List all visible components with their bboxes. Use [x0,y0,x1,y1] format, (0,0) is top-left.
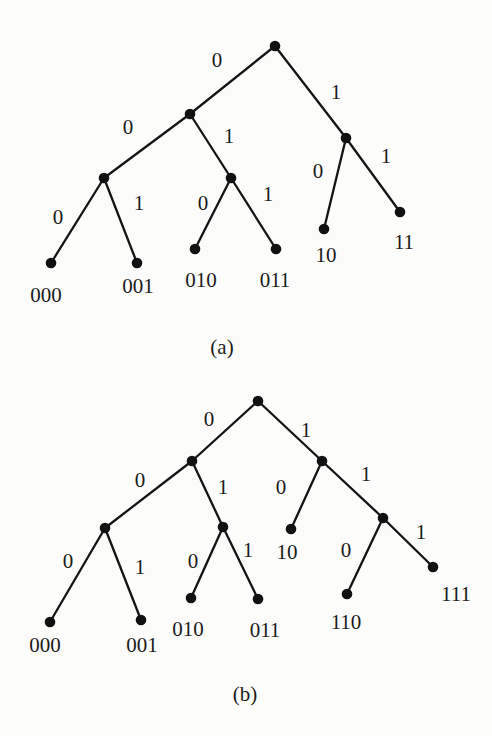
tree-edge-b-root-n1 [258,401,322,461]
leaf-code-label-b-001: 001 [126,633,158,657]
tree-edge-b-n00-l000 [50,528,105,622]
tree-node-a-l001 [132,258,143,269]
edge-bit-label-b: 0 [63,549,74,573]
leaf-code-label-b-010: 010 [172,617,204,641]
tree-node-b-l10 [286,524,297,535]
edge-bit-label-b: 1 [416,520,427,544]
tree-node-b-l011 [253,594,264,605]
tree-node-b-n11 [378,513,389,524]
leaf-code-label-a-000: 000 [30,283,62,307]
edge-bit-label-a: 0 [212,48,223,72]
edge-bit-label-a: 1 [381,144,392,168]
edge-bit-label-a: 1 [331,80,342,104]
tree-node-b-n0 [187,456,198,467]
tree-edge-b-n1-l10 [291,461,322,529]
edge-bit-label-b: 1 [361,462,372,486]
tree-node-b-n00 [100,523,111,534]
edge-bit-label-a: 0 [313,159,324,183]
leaf-code-label-a-001: 001 [122,274,154,298]
leaf-code-label-b-000: 000 [29,633,61,657]
edge-bit-label-a: 0 [123,115,134,139]
leaf-code-label-b-011: 011 [250,618,281,642]
tree-node-b-l010 [186,593,197,604]
tree-edge-b-n11-l110 [347,518,383,594]
tree-edge-b-n1-n11 [322,461,383,518]
tree-edge-a-n00-l001 [104,178,137,263]
edge-bit-label-a: 0 [198,191,209,215]
tree-node-a-root [270,41,281,52]
tree-node-b-root [253,396,264,407]
edge-bit-label-b: 0 [188,549,199,573]
tree-node-a-l010 [190,244,201,255]
edge-bit-label-b: 0 [341,538,352,562]
tree-node-a-l000 [46,258,57,269]
edge-bit-label-b: 1 [135,555,146,579]
tree-edge-a-n0-n00 [104,114,190,178]
edge-bit-label-b: 1 [218,475,229,499]
tree-node-a-l11 [395,207,406,218]
edge-bit-label-a: 1 [134,191,145,215]
leaf-code-label-a-011: 011 [260,268,291,292]
edge-bit-label-b: 0 [135,468,146,492]
leaf-code-label-a-10: 10 [316,243,337,267]
tree-node-b-l111 [428,562,439,573]
tree-node-b-l000 [45,617,56,628]
leaf-code-label-a-11: 11 [394,230,414,254]
tree-node-a-n1 [341,133,352,144]
tree-node-b-l110 [342,589,353,600]
tree-node-a-n0 [185,109,196,120]
tree-node-b-l001 [136,615,147,626]
tree-edge-b-n0-n00 [105,461,192,528]
leaf-code-label-a-010: 010 [185,268,217,292]
tree-edge-b-root-n0 [192,401,258,461]
figure-page: 0101010101000001010011101101010101010100… [0,0,492,736]
tree-node-a-n01 [226,173,237,184]
tree-edge-a-root-n0 [190,46,275,114]
binary-tree-diagrams: 0101010101000001010011101101010101010100… [0,0,492,736]
leaf-code-label-b-110: 110 [331,610,362,634]
edge-bit-label-a: 1 [224,124,235,148]
figure-caption-a: (a) [192,335,252,360]
leaf-code-label-b-10: 10 [277,540,298,564]
edge-bit-label-a: 0 [53,205,64,229]
edge-bit-label-a: 1 [263,182,274,206]
tree-node-a-l011 [271,244,282,255]
edge-bit-label-b: 0 [276,475,287,499]
tree-edge-a-n1-l10 [324,138,346,229]
tree-node-a-l10 [319,224,330,235]
leaf-code-label-b-111: 111 [441,582,471,606]
tree-edge-a-n1-l11 [346,138,400,212]
edge-bit-label-b: 1 [243,538,254,562]
tree-node-b-n1 [317,456,328,467]
figure-caption-b: (b) [215,682,275,707]
tree-node-b-n01 [218,522,229,533]
edge-bit-label-b: 0 [204,407,215,431]
edge-bit-label-b: 1 [301,418,312,442]
tree-node-a-n00 [99,173,110,184]
